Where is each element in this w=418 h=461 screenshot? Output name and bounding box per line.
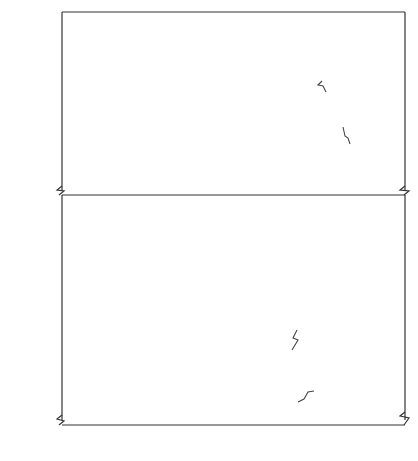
axis-break — [57, 186, 409, 195]
top-panel — [62, 12, 405, 190]
bottom-november-arrow-icon — [298, 391, 314, 402]
top-december-arrow-icon — [343, 127, 350, 144]
bottom-left-break-icon — [57, 415, 64, 425]
left-break-mark-icon — [57, 186, 64, 195]
bottom-may-arrow-icon — [292, 330, 298, 350]
bottom-panel — [57, 195, 409, 425]
top-may-arrow-icon — [318, 81, 326, 92]
futures-price-chart — [0, 0, 418, 461]
